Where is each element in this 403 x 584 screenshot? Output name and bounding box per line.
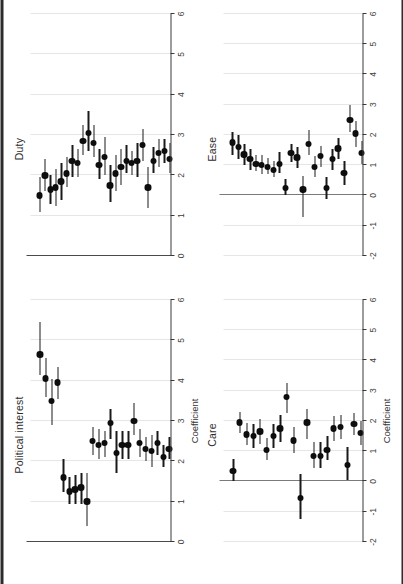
axis-tick-label: -2 <box>367 538 377 546</box>
axis-tick-label: 4 <box>367 72 377 77</box>
axis-tick-label: -1 <box>367 222 377 230</box>
axis-tick-label: 6 <box>175 12 185 17</box>
axis-tick <box>170 94 174 95</box>
axis-tick-label: 2 <box>367 133 377 138</box>
axis-tick-label: 4 <box>367 358 377 363</box>
axis-tick <box>170 215 174 216</box>
panel-grid: Political interest 0123456 Coefficient D… <box>10 8 393 576</box>
axis-tick <box>362 13 366 14</box>
axis-tick <box>362 511 366 512</box>
axis-tick-label: 2 <box>175 459 185 464</box>
axis-tick-label: 4 <box>175 92 185 97</box>
figure-canvas: Political interest 0123456 Coefficient D… <box>0 0 403 584</box>
x-axis-political-interest: 0123456 <box>170 300 171 542</box>
plot-area-ease <box>223 14 364 256</box>
panel-title-political-interest: Political interest <box>12 294 24 576</box>
axis-tick-label: 1 <box>175 499 185 504</box>
axis-tick <box>362 225 366 226</box>
axis-tick <box>362 164 366 165</box>
panel-title-duty: Duty <box>12 8 24 290</box>
plot-area-care <box>223 300 364 542</box>
x-axis-care: -2-10123456 <box>362 300 363 542</box>
axis-tick <box>170 299 174 300</box>
axis-tick-label: 0 <box>175 254 185 259</box>
axis-tick-label: 5 <box>367 42 377 47</box>
axis-tick <box>362 390 366 391</box>
axis-tick <box>170 13 174 14</box>
plot-area-duty <box>30 14 171 256</box>
axis-tick <box>170 255 174 256</box>
axis-tick <box>362 43 366 44</box>
estimate-row <box>356 300 366 542</box>
axis-tick-label: 3 <box>175 419 185 424</box>
axis-tick-label: 0 <box>367 479 377 484</box>
axis-tick-label: 1 <box>367 449 377 454</box>
confidence-interval-whisker <box>302 176 303 217</box>
page-edge-top <box>0 0 3 584</box>
axis-tick <box>362 104 366 105</box>
axis-tick-label: 5 <box>175 52 185 57</box>
axis-tick-label: 3 <box>367 102 377 107</box>
axis-tick-label: 0 <box>175 540 185 545</box>
axis-tick <box>362 195 366 196</box>
axis-tick-label: 2 <box>367 419 377 424</box>
panel-ease: Ease -2-10123456 <box>203 8 394 290</box>
axis-tick <box>362 541 366 542</box>
axis-tick-label: 1 <box>367 163 377 168</box>
axis-tick <box>170 380 174 381</box>
panel-title-ease: Ease <box>205 8 217 290</box>
axis-tick <box>362 74 366 75</box>
panel-political-interest: Political interest 0123456 Coefficient <box>10 294 201 576</box>
axis-tick-label: -2 <box>367 252 377 260</box>
axis-tick <box>170 53 174 54</box>
axis-tick <box>362 450 366 451</box>
axis-tick <box>170 420 174 421</box>
axis-tick <box>362 329 366 330</box>
axis-tick-label: 5 <box>367 328 377 333</box>
axis-tick <box>170 541 174 542</box>
confidence-interval-whisker <box>39 322 40 374</box>
axis-tick <box>362 134 366 135</box>
panel-care: Care -2-10123456 Coefficient <box>203 294 394 576</box>
axis-tick-label: 0 <box>367 193 377 198</box>
axis-tick <box>362 420 366 421</box>
axis-tick-label: -1 <box>367 508 377 516</box>
axis-tick-label: 3 <box>175 133 185 138</box>
axis-tick-label: 4 <box>175 378 185 383</box>
axis-tick <box>362 360 366 361</box>
axis-tick <box>170 501 174 502</box>
axis-tick <box>170 339 174 340</box>
axis-tick <box>170 174 174 175</box>
axis-tick-label: 6 <box>367 298 377 303</box>
axis-tick-label: 5 <box>175 338 185 343</box>
axis-tick <box>170 460 174 461</box>
plot-area-political-interest <box>30 300 171 542</box>
axis-tick <box>362 255 366 256</box>
x-axis-title-care: Coefficient <box>380 300 391 542</box>
axis-tick <box>170 134 174 135</box>
panel-duty: Duty 0123456 <box>10 8 201 290</box>
axis-tick-label: 1 <box>175 213 185 218</box>
axis-tick <box>362 299 366 300</box>
axis-tick <box>362 481 366 482</box>
axis-tick-label: 3 <box>367 388 377 393</box>
axis-tick-label: 2 <box>175 173 185 178</box>
axis-tick-label: 6 <box>175 298 185 303</box>
x-axis-duty: 0123456 <box>170 14 171 256</box>
x-axis-ease: -2-10123456 <box>362 14 363 256</box>
panel-title-care: Care <box>205 294 217 576</box>
axis-tick-label: 6 <box>367 12 377 17</box>
x-axis-title-political-interest: Coefficient <box>188 300 199 542</box>
